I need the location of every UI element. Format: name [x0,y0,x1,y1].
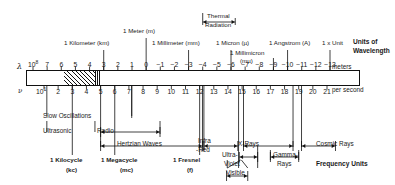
frequency-tick-4: 4 [85,89,89,96]
wavelength-tick-m4: −4 [199,62,207,69]
frequency-tick-18: 18 [281,89,289,96]
wavelength-tick-m5: −5 [213,62,221,69]
frequency-tick-3: 3 [70,89,74,96]
wavelength-tick-3: 3 [102,62,106,69]
wavelength-tick-m1: −1 [156,62,164,69]
frequency-tick-15: 15 [238,89,246,96]
wavelength-tick-m7: −7 [241,62,249,69]
frequency-tick-6: 6 [113,89,117,96]
wavelength-tick-1: 1 [130,62,134,69]
frequency-tick-21: 21 [323,89,331,96]
frequency-tick-10: 10 [168,89,176,96]
frequency-tick-17: 17 [267,89,275,96]
frequency-tick-14: 14 [224,89,232,96]
frequency-tick-5: 5 [99,89,103,96]
wavelength-tick-m11: −11 [296,62,307,69]
wavelength-tick-2: 2 [116,62,120,69]
wavelength-tick-7: 7 [45,62,49,69]
frequency-tick-9: 9 [155,89,159,96]
frequency-tick-8: 8 [141,89,145,96]
wavelength-tick-m6: −6 [227,62,235,69]
wavelength-tick-4: 4 [88,62,92,69]
spectrum-figure: 1 Kilometer (km) 1 Meter (m) 1 Millimete… [0,0,395,185]
wavelength-tick-m2: −2 [171,62,179,69]
frequency-tick-19: 19 [295,89,303,96]
wavelength-tick-m12: −12 [310,62,322,69]
wavelength-tick-m3: −3 [185,62,193,69]
wavelength-tick-m8: −8 [255,62,263,69]
frequency-tick-11: 11 [182,89,189,96]
frequency-tick-7: 7 [127,89,131,96]
frequency-tick-16: 16 [252,89,260,96]
wavelength-tick-m13: −13 [324,62,336,69]
frequency-tick-12: 12 [196,89,204,96]
wavelength-tick-6: 6 [59,62,63,69]
wavelength-tick-5: 5 [74,62,78,69]
wavelength-tick-0: 0 [144,62,148,69]
wavelength-tick-m9: −9 [270,62,278,69]
frequency-tick-20: 20 [309,89,317,96]
frequency-tick-2: 2 [56,89,60,96]
frequency-tick-13: 13 [210,89,218,96]
wavelength-tick-m10: −10 [282,62,294,69]
